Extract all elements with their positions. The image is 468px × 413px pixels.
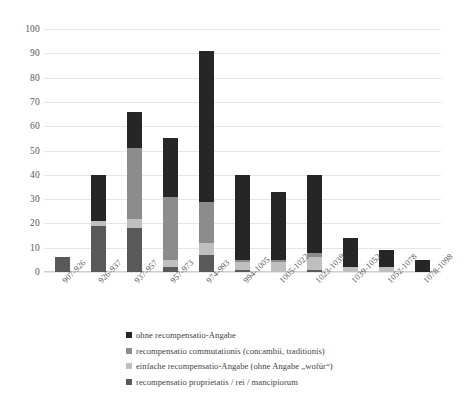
y-axis-tick-label: 20 (4, 218, 40, 228)
bar-slot (80, 29, 116, 272)
bar-slot (261, 29, 297, 272)
bar-segment[interactable] (163, 260, 178, 267)
plot-area (44, 29, 441, 272)
y-axis-tick-label: 30 (4, 194, 40, 204)
y-axis-tick-label: 80 (4, 73, 40, 83)
stacked-bar[interactable] (163, 138, 178, 272)
y-axis-tick-label: 70 (4, 97, 40, 107)
bar-slot (188, 29, 224, 272)
x-tick-slot: 926-937 (80, 272, 116, 332)
bar-segment[interactable] (307, 175, 322, 253)
legend-item-label: ohne recompensatio-Angabe (136, 330, 236, 340)
legend-swatch-icon (126, 348, 132, 354)
stacked-bar[interactable] (343, 238, 358, 272)
y-axis-tick-label: 90 (4, 48, 40, 58)
bar-segment[interactable] (235, 262, 250, 269)
legend-item[interactable]: ohne recompensatio-Angabe (126, 330, 456, 340)
x-tick-slot: 957-973 (152, 272, 188, 332)
bar-segment[interactable] (199, 243, 214, 255)
x-tick-slot: 994-1005 (224, 272, 260, 332)
bar-segment[interactable] (199, 51, 214, 202)
y-axis-tick-label: 60 (4, 121, 40, 131)
stacked-bar[interactable] (271, 192, 286, 272)
x-tick-slot: 974-993 (188, 272, 224, 332)
y-axis: 0102030405060708090100 (0, 29, 40, 272)
bar-segment[interactable] (127, 228, 142, 272)
y-axis-tick-label: 50 (4, 146, 40, 156)
stacked-bar[interactable] (235, 175, 250, 272)
legend-swatch-icon (126, 332, 132, 338)
y-axis-tick-label: 100 (4, 24, 40, 34)
legend-item-label: einfache recompensatio-Angabe (ohne Anga… (136, 361, 333, 371)
stacked-bar[interactable] (91, 175, 106, 272)
bar-segment[interactable] (127, 112, 142, 148)
x-tick-slot: 1005-1022 (261, 272, 297, 332)
bar-slot (297, 29, 333, 272)
bar-segment[interactable] (163, 197, 178, 260)
legend-item[interactable]: recompensatio proprietatis / rei / manci… (126, 377, 456, 387)
legend-item-label: recompensatio proprietatis / rei / manci… (136, 377, 298, 387)
legend-item[interactable]: einfache recompensatio-Angabe (ohne Anga… (126, 361, 456, 371)
bar-segment[interactable] (127, 219, 142, 229)
x-tick-slot: 907-926 (44, 272, 80, 332)
legend-swatch-icon (126, 363, 132, 369)
stacked-bar-chart: 0102030405060708090100 907-926926-937937… (0, 0, 468, 413)
bar-slot (333, 29, 369, 272)
bar-series-group (44, 29, 441, 272)
legend-item[interactable]: recompensatio commutationis (concambii, … (126, 346, 456, 356)
bar-segment[interactable] (163, 138, 178, 196)
bar-segment[interactable] (271, 192, 286, 260)
bar-segment[interactable] (343, 238, 358, 267)
bar-segment[interactable] (91, 226, 106, 272)
bar-segment[interactable] (127, 148, 142, 218)
x-tick-slot: 937-957 (116, 272, 152, 332)
bar-slot (116, 29, 152, 272)
bar-segment[interactable] (91, 175, 106, 221)
x-tick-slot: 1078-1098 (405, 272, 441, 332)
y-axis-tick-label: 40 (4, 170, 40, 180)
stacked-bar[interactable] (127, 112, 142, 272)
bar-segment[interactable] (199, 202, 214, 243)
bar-segment[interactable] (235, 175, 250, 260)
y-axis-tick-label: 10 (4, 243, 40, 253)
x-tick-slot: 1052-1078 (369, 272, 405, 332)
bar-slot (369, 29, 405, 272)
bar-slot (44, 29, 80, 272)
bar-slot (405, 29, 441, 272)
legend-swatch-icon (126, 379, 132, 385)
x-tick-slot: 1039-1052 (333, 272, 369, 332)
chart-legend: ohne recompensatio-Angaberecompensatio c… (126, 330, 456, 392)
bar-slot (224, 29, 260, 272)
stacked-bar[interactable] (199, 51, 214, 272)
legend-item-label: recompensatio commutationis (concambii, … (136, 346, 325, 356)
x-axis: 907-926926-937937-957957-973974-993994-1… (44, 272, 441, 332)
y-axis-tick-label: 0 (4, 267, 40, 277)
stacked-bar[interactable] (379, 250, 394, 272)
x-tick-slot: 1023-1039 (297, 272, 333, 332)
bar-slot (152, 29, 188, 272)
